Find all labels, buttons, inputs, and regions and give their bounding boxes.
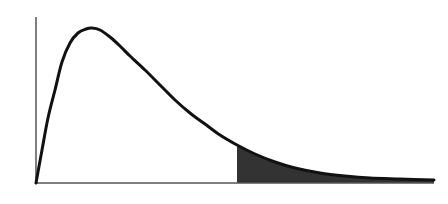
density-curve [36, 28, 434, 183]
chart-container [0, 0, 448, 204]
shaded-tail-area [237, 145, 434, 183]
density-chart [0, 0, 448, 204]
